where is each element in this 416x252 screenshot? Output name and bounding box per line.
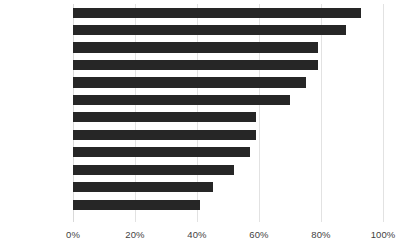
bar-row: India <box>73 91 383 108</box>
bar <box>73 182 213 192</box>
plot-area: S. AfricaPolandChinaAustraliaKazakhstanI… <box>73 4 383 222</box>
bar-row: S. Africa <box>73 4 383 21</box>
bar-row: US <box>73 179 383 196</box>
bar <box>73 8 361 18</box>
x-tick-label: 100% <box>371 229 396 240</box>
x-tick-label: 40% <box>187 229 206 240</box>
bar <box>73 77 306 87</box>
bar-rows: S. AfricaPolandChinaAustraliaKazakhstanI… <box>73 4 383 222</box>
bar <box>73 95 290 105</box>
x-tick-label: 20% <box>125 229 144 240</box>
bar <box>73 165 234 175</box>
x-axis-tick-labels: 0%20%40%60%80%100% <box>0 229 416 245</box>
bar-row: Kazakhstan <box>73 74 383 91</box>
bar-row: Czech Rep <box>73 109 383 126</box>
x-tick-label: 80% <box>311 229 330 240</box>
bar-row: Poland <box>73 21 383 38</box>
bar <box>73 42 318 52</box>
bar <box>73 147 250 157</box>
bar <box>73 112 256 122</box>
x-tick-label: 60% <box>249 229 268 240</box>
bar-row: China <box>73 39 383 56</box>
bar-row: Australia <box>73 56 383 73</box>
x-tick-label: 0% <box>66 229 80 240</box>
bar <box>73 200 200 210</box>
bar-row: Morocco <box>73 161 383 178</box>
bar <box>73 25 346 35</box>
bar <box>73 60 318 70</box>
bar-row: Israel <box>73 126 383 143</box>
bar-row: Greece <box>73 144 383 161</box>
bar-chart: S. AfricaPolandChinaAustraliaKazakhstanI… <box>0 0 416 252</box>
bar <box>73 130 256 140</box>
bar-row: Germany <box>73 196 383 213</box>
gridline <box>383 4 384 222</box>
